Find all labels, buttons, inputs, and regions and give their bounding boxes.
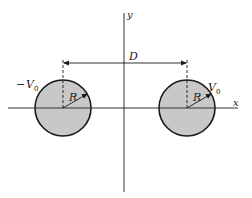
x-axis-label: x (233, 97, 239, 108)
separation-label: D (128, 50, 138, 63)
right-potential-label: V 0 (208, 81, 220, 96)
left-potential-label: − V 0 (16, 78, 38, 93)
left-potential-subscript: 0 (34, 85, 38, 93)
right-radius-label: R (192, 91, 201, 104)
right-potential-subscript: 0 (216, 88, 220, 96)
left-radius-label: R (68, 91, 77, 104)
left-potential-sign: − (16, 78, 25, 91)
diagram-canvas: y x D R R − V 0 V 0 (0, 0, 252, 198)
y-axis-label: y (126, 9, 133, 20)
